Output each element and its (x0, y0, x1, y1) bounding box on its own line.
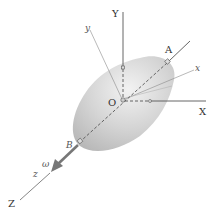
label-Z: Z (8, 198, 15, 209)
label-O: O (108, 97, 116, 108)
label-omega: ω (42, 159, 50, 169)
label-Y: Y (111, 8, 119, 19)
label-A: A (164, 44, 173, 55)
omega-arrow (51, 145, 78, 172)
label-X: X (199, 106, 207, 117)
label-B: B (65, 140, 73, 150)
label-y: y (84, 23, 91, 33)
label-z: z (32, 169, 38, 179)
rigid-body-diagram: Y y A x O X B ω z Z (0, 0, 220, 214)
label-x: x (195, 63, 200, 73)
